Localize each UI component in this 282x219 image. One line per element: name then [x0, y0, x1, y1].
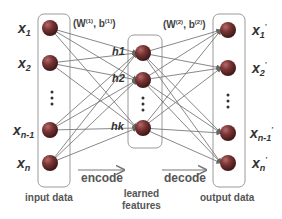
hidden-node [135, 120, 151, 136]
decode-label: decode [164, 171, 206, 185]
output-label-x1-prime: x1' [252, 22, 266, 40]
output-node [220, 22, 236, 38]
output-label-xn-1-prime: xn-1' [250, 125, 273, 143]
output-node [220, 125, 236, 141]
hidden-label-h1: h1 [112, 45, 125, 57]
hidden-caption-line1: learned [122, 188, 161, 200]
encode-label: encode [81, 171, 123, 185]
hidden-caption-line2: features [122, 200, 161, 212]
decoder-params-label: (W(2), b(2)) [163, 19, 205, 30]
hidden-node [135, 72, 151, 88]
output-node [220, 60, 236, 76]
input-node [42, 55, 58, 71]
input-node [42, 122, 58, 138]
hidden-node [135, 45, 151, 61]
ellipsis-dot [227, 94, 230, 97]
input-caption: input data [25, 192, 73, 203]
input-node [42, 155, 58, 171]
hidden-label-h2: h2 [112, 72, 125, 84]
hidden-label-hk: hk [111, 120, 124, 132]
hidden-nodes [135, 45, 151, 136]
ellipsis-dot [51, 97, 54, 100]
ellipsis-dot [142, 103, 145, 106]
input-label-xn: xn [17, 155, 30, 173]
input-label-x1: x1 [18, 20, 31, 38]
output-nodes [220, 22, 236, 171]
ellipsis-dot [51, 91, 54, 94]
encoder-params-label: (W(1), b(1)) [73, 18, 115, 29]
output-caption: output data [200, 192, 254, 203]
output-label-xn-prime: xn' [252, 155, 267, 173]
input-nodes [42, 20, 58, 171]
hidden-caption: learned features [122, 188, 161, 212]
input-node [42, 20, 58, 36]
ellipsis-dot [227, 106, 230, 109]
ellipsis-dot [142, 97, 145, 100]
autoencoder-diagram [0, 0, 282, 219]
decoder-edges [142, 30, 221, 163]
ellipsis-dot [142, 109, 145, 112]
ellipsis-dot [51, 103, 54, 106]
output-label-x2-prime: x2' [252, 60, 266, 78]
input-label-x2: x2 [18, 55, 31, 73]
ellipsis-dot [227, 100, 230, 103]
output-node [220, 155, 236, 171]
input-label-xn-1: xn-1 [13, 122, 34, 140]
